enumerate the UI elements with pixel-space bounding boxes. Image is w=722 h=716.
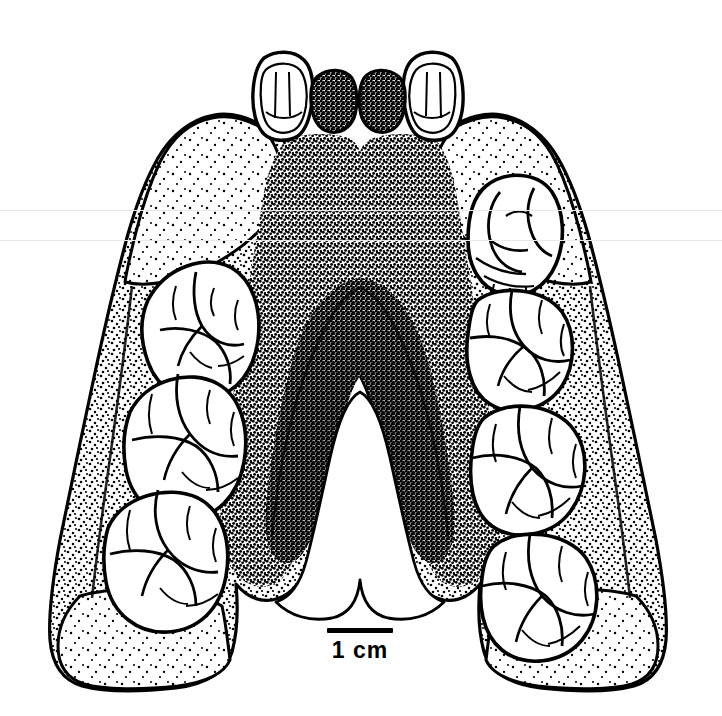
tooth-right-central-incisor-root <box>359 70 405 132</box>
tooth-right-first-molar <box>467 290 573 411</box>
tooth-right-lateral-incisor <box>403 52 463 140</box>
tooth-left-lateral-incisor <box>253 52 313 140</box>
scale-bar-label: 1 cm <box>300 638 420 662</box>
tooth-right-premolar <box>468 175 562 298</box>
scale-bar: 1 cm <box>300 628 420 662</box>
tooth-right-third-molar <box>481 534 597 661</box>
tooth-left-central-incisor-root <box>311 70 357 132</box>
scale-bar-rule <box>327 628 393 633</box>
maxilla-illustration <box>0 0 722 716</box>
tooth-left-third-molar <box>104 490 228 632</box>
anterior-teeth <box>253 52 463 140</box>
figure-root: 1 cm <box>0 0 722 716</box>
tooth-right-second-molar <box>471 406 585 535</box>
